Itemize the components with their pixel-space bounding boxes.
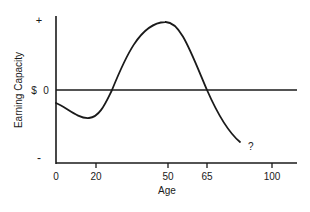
x-tick-100: 100: [264, 171, 281, 182]
y-tick-plus: +: [36, 14, 42, 26]
y-axis-label: Earning Capacity: [13, 52, 24, 128]
earning-capacity-chart: 0 20 50 65 100 Age + $ 0 - Earning Capac…: [0, 0, 310, 212]
x-tick-0: 0: [53, 171, 59, 182]
y-tick-zero: 0: [43, 85, 49, 96]
x-tick-20: 20: [90, 171, 102, 182]
question-annotation: ?: [248, 141, 254, 152]
x-tick-65: 65: [201, 171, 213, 182]
earning-capacity-curve: [56, 22, 240, 142]
x-axis-label: Age: [158, 185, 176, 196]
x-tick-50: 50: [162, 171, 174, 182]
y-tick-dollar: $: [31, 85, 37, 96]
y-tick-minus: -: [37, 151, 41, 165]
